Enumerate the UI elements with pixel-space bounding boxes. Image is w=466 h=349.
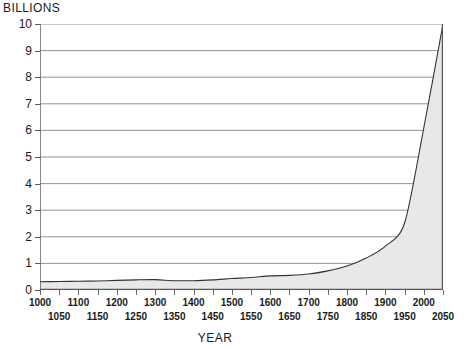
x-tick-label: 1100 xyxy=(68,298,90,308)
x-tick-label: 1300 xyxy=(144,298,166,308)
y-tick-label: 7 xyxy=(2,98,32,110)
x-tick-label: 2000 xyxy=(413,298,435,308)
x-tick-label: 1800 xyxy=(336,298,358,308)
x-axis-title: YEAR xyxy=(0,331,466,345)
x-tick-mark xyxy=(194,290,195,295)
x-tick-mark xyxy=(155,290,156,295)
x-tick-mark xyxy=(213,290,214,295)
y-tick-mark xyxy=(35,157,40,158)
x-tick-mark xyxy=(405,290,406,295)
y-tick-label: 0 xyxy=(2,284,32,296)
x-tick-label: 1500 xyxy=(221,298,243,308)
x-tick-mark xyxy=(289,290,290,295)
y-tick-label: 1 xyxy=(2,257,32,269)
x-tick-mark xyxy=(424,290,425,295)
x-tick-mark xyxy=(174,290,175,295)
gridlines xyxy=(40,24,443,263)
x-tick-label: 1000 xyxy=(29,298,51,308)
x-tick-mark xyxy=(347,290,348,295)
x-tick-label: 1650 xyxy=(278,312,300,322)
y-tick-label: 8 xyxy=(2,71,32,83)
x-tick-mark xyxy=(443,290,444,295)
x-tick-label: 1250 xyxy=(125,312,147,322)
x-tick-label: 1550 xyxy=(240,312,262,322)
x-tick-mark xyxy=(232,290,233,295)
x-tick-label: 1950 xyxy=(393,312,415,322)
x-tick-label: 1700 xyxy=(298,298,320,308)
x-tick-label: 1600 xyxy=(259,298,281,308)
y-tick-mark xyxy=(35,184,40,185)
x-tick-mark xyxy=(251,290,252,295)
y-tick-label: 5 xyxy=(2,151,32,163)
x-tick-label: 1200 xyxy=(106,298,128,308)
x-tick-mark xyxy=(328,290,329,295)
x-tick-label: 1900 xyxy=(374,298,396,308)
population-curve xyxy=(40,24,443,282)
y-tick-label: 9 xyxy=(2,45,32,57)
x-tick-mark xyxy=(309,290,310,295)
x-tick-label: 1150 xyxy=(87,312,109,322)
y-tick-mark xyxy=(35,104,40,105)
y-tick-mark xyxy=(35,130,40,131)
y-tick-mark xyxy=(35,24,40,25)
x-tick-mark xyxy=(136,290,137,295)
x-tick-label: 1750 xyxy=(317,312,339,322)
x-tick-label: 2050 xyxy=(432,312,454,322)
x-tick-label: 1400 xyxy=(182,298,204,308)
x-tick-mark xyxy=(366,290,367,295)
x-axis-title-text: YEAR xyxy=(198,331,233,345)
x-tick-label: 1850 xyxy=(355,312,377,322)
population-growth-chart: BILLIONS 109876543210 100011001200130014… xyxy=(0,0,466,349)
x-tick-label: 1050 xyxy=(48,312,70,322)
y-tick-label: 3 xyxy=(2,204,32,216)
chart-canvas xyxy=(40,24,443,290)
x-tick-mark xyxy=(270,290,271,295)
y-tick-label: 10 xyxy=(2,18,32,30)
y-axis-title: BILLIONS xyxy=(3,1,60,15)
y-tick-label: 6 xyxy=(2,124,32,136)
y-tick-mark xyxy=(35,263,40,264)
y-tick-label: 4 xyxy=(2,178,32,190)
x-tick-label: 1350 xyxy=(163,312,185,322)
y-tick-mark xyxy=(35,51,40,52)
y-tick-mark xyxy=(35,237,40,238)
x-tick-mark xyxy=(59,290,60,295)
x-tick-mark xyxy=(98,290,99,295)
x-tick-mark xyxy=(40,290,41,295)
plot-area xyxy=(40,24,443,290)
y-tick-mark xyxy=(35,77,40,78)
x-tick-mark xyxy=(78,290,79,295)
x-tick-mark xyxy=(117,290,118,295)
x-tick-label: 1450 xyxy=(202,312,224,322)
y-tick-mark xyxy=(35,210,40,211)
y-tick-label: 2 xyxy=(2,231,32,243)
x-tick-mark xyxy=(385,290,386,295)
